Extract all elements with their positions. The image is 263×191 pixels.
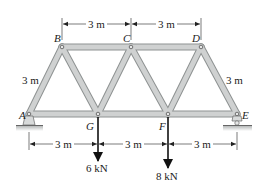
dim-ag: 3 m (55, 138, 72, 150)
pin-d-icon (199, 45, 203, 49)
dim-left-height: 3 m (22, 74, 39, 86)
load-label-g: 6 kN (86, 162, 108, 174)
dim-fe: 3 m (194, 138, 211, 150)
node-label-c: C (123, 32, 131, 44)
pin-b-icon (60, 45, 64, 49)
pin-e-icon (235, 112, 239, 116)
pin-f-icon (166, 112, 170, 116)
node-label-a: A (18, 109, 26, 121)
top-dimensions (62, 18, 201, 40)
dim-cd: 3 m (158, 18, 175, 30)
dim-gf: 3 m (125, 138, 142, 150)
dim-bc: 3 m (88, 18, 105, 30)
pin-a-icon (27, 112, 31, 116)
dim-right-height: 3 m (226, 74, 243, 86)
pin-c-icon (129, 45, 133, 49)
truss-diagram: A B C D E F G 3 m 3 m 3 m 3 m 3 m 3 m 3 … (0, 0, 263, 191)
node-label-g: G (86, 120, 94, 132)
node-label-e: E (241, 109, 249, 121)
pin-g-icon (96, 112, 100, 116)
node-label-b: B (54, 32, 61, 44)
load-label-f: 8 kN (156, 170, 178, 182)
node-label-f: F (158, 120, 166, 132)
node-label-d: D (191, 32, 200, 44)
